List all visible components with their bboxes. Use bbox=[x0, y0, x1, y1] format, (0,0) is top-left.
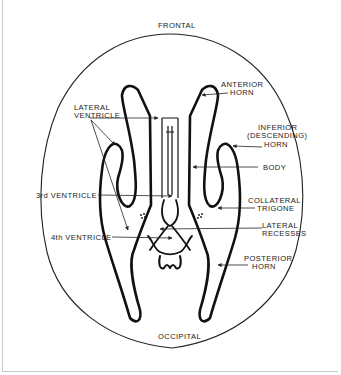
choroid-dots-right bbox=[197, 213, 203, 219]
label-frontal: FRONTAL bbox=[158, 21, 196, 30]
fourth-ventricle bbox=[159, 256, 181, 268]
label-occipital: OCCIPITAL bbox=[158, 332, 201, 341]
label-collateral-trigone-2: TRIGONE bbox=[257, 204, 294, 213]
leader-inferior-horn bbox=[233, 146, 262, 147]
leader-lateral-ventricle-b bbox=[91, 120, 115, 145]
leader-3rd-ventricle bbox=[98, 195, 172, 196]
label-lateral-ventricle-2: VENTRICLE bbox=[74, 111, 120, 120]
label-inferior-horn-2: (DESCENDING) bbox=[247, 131, 308, 140]
lateral-recesses bbox=[148, 236, 192, 254]
label-4th-ventricle: 4th VENTRICLE bbox=[51, 233, 112, 242]
third-ventricle bbox=[162, 200, 178, 226]
leader-anterior-horn bbox=[202, 93, 228, 95]
label-lateral-recesses-2: RECESSES bbox=[262, 229, 307, 238]
third-ventricle-slit bbox=[162, 118, 178, 198]
ventricles-diagram: FRONTAL OCCIPITAL LATERAL VENTRICLE 3rd … bbox=[0, 0, 341, 375]
third-ventricle-inner bbox=[166, 126, 174, 195]
leader-lateral-recesses bbox=[160, 228, 262, 229]
label-inferior-horn-3: HORN bbox=[264, 140, 288, 149]
right-lateral-ventricle bbox=[189, 86, 240, 321]
left-lateral-ventricle bbox=[100, 86, 151, 321]
label-body: BODY bbox=[263, 163, 286, 172]
label-posterior-horn-2: HORN bbox=[252, 262, 276, 271]
label-anterior-horn-2: HORN bbox=[230, 88, 254, 97]
leader-4th-ventricle bbox=[112, 237, 172, 238]
leader-lateral-ventricle-c bbox=[91, 120, 128, 230]
label-3rd-ventricle: 3rd VENTRICLE bbox=[36, 191, 97, 200]
